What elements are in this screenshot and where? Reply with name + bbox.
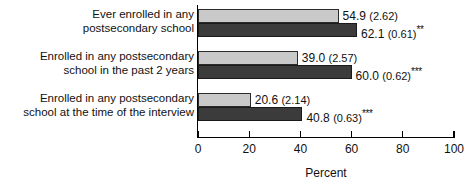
x-tick-mark-20 bbox=[249, 131, 250, 138]
bar-value-standard-error: (0.62) bbox=[382, 70, 411, 82]
bar-value-significance-stars: ** bbox=[416, 24, 423, 35]
bar-dark-gray-series-0 bbox=[198, 23, 357, 37]
category-label-1: Enrolled in any postsecondary school in … bbox=[0, 50, 194, 77]
bar-value-standard-error: (2.62) bbox=[369, 10, 398, 22]
x-axis-title: Percent bbox=[198, 166, 454, 180]
x-axis-line bbox=[197, 137, 455, 138]
bar-value-number: 54.9 bbox=[343, 9, 370, 23]
bar-dark-gray-series-1 bbox=[198, 65, 352, 79]
x-tick-label-0: 0 bbox=[195, 142, 202, 156]
x-tick-mark-80 bbox=[402, 131, 403, 138]
x-tick-mark-0 bbox=[197, 131, 198, 138]
bar-value-significance-stars: *** bbox=[362, 108, 373, 119]
x-tick-label-80: 80 bbox=[396, 142, 409, 156]
bar-value-label-light-gray-series-0: 54.9 (2.62) bbox=[343, 9, 398, 23]
x-tick-label-100: 100 bbox=[444, 142, 464, 156]
bar-value-number: 39.0 bbox=[302, 51, 329, 65]
bar-value-number: 60.0 bbox=[356, 69, 383, 83]
plot-area: 020406080100 54.9 (2.62)39.0 (2.57)20.6 … bbox=[198, 5, 454, 138]
bar-light-gray-series-1 bbox=[198, 51, 298, 65]
bar-dark-gray-series-2 bbox=[198, 107, 302, 121]
bar-light-gray-series-2 bbox=[198, 93, 251, 107]
horizontal-bar-chart: Ever enrolled in any postsecondary schoo… bbox=[0, 0, 466, 196]
x-tick-mark-100 bbox=[453, 131, 454, 138]
bar-value-number: 62.1 bbox=[361, 27, 388, 41]
bar-value-standard-error: (0.63) bbox=[333, 112, 362, 124]
x-tick-mark-40 bbox=[300, 131, 301, 138]
bar-value-standard-error: (0.61) bbox=[388, 28, 417, 40]
bar-light-gray-series-0 bbox=[198, 9, 339, 23]
bar-value-standard-error: (2.57) bbox=[329, 52, 358, 64]
category-label-2: Enrolled in any postsecondary school at … bbox=[0, 92, 194, 119]
bar-value-standard-error: (2.14) bbox=[281, 94, 310, 106]
category-label-0: Ever enrolled in any postsecondary schoo… bbox=[0, 8, 194, 35]
x-tick-label-40: 40 bbox=[294, 142, 307, 156]
bar-value-label-dark-gray-series-2: 40.8 (0.63)*** bbox=[306, 107, 372, 121]
x-tick-label-60: 60 bbox=[345, 142, 358, 156]
bar-value-label-dark-gray-series-1: 60.0 (0.62)*** bbox=[356, 65, 422, 79]
bar-value-number: 20.6 bbox=[255, 93, 282, 107]
x-tick-mark-60 bbox=[351, 131, 352, 138]
bar-value-number: 40.8 bbox=[306, 111, 333, 125]
bar-value-label-light-gray-series-1: 39.0 (2.57) bbox=[302, 51, 357, 65]
bar-value-label-dark-gray-series-0: 62.1 (0.61)** bbox=[361, 23, 424, 37]
bar-value-significance-stars: *** bbox=[411, 66, 422, 77]
x-tick-label-20: 20 bbox=[243, 142, 256, 156]
bar-value-label-light-gray-series-2: 20.6 (2.14) bbox=[255, 93, 310, 107]
